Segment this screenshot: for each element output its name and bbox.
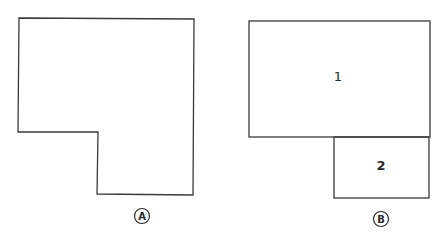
caption-letter-a: A: [138, 211, 146, 222]
caption-letter-b: B: [377, 214, 385, 225]
region-2-label: 2: [376, 158, 385, 173]
caption-b: B: [374, 212, 389, 227]
region-1-label: 1: [334, 69, 342, 84]
figure-a: A: [18, 18, 194, 224]
caption-a: A: [135, 209, 150, 224]
diagram-canvas: A 1 2 B: [0, 0, 445, 236]
l-shape-outline: [18, 18, 194, 195]
figure-b: 1 2 B: [249, 21, 430, 227]
